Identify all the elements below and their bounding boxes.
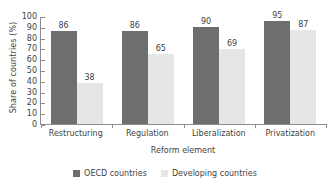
bar-group: 9069 — [184, 17, 255, 124]
y-axis-title: Share of countries (%) — [9, 8, 18, 128]
legend-label: Developing countries — [172, 169, 257, 178]
bar-chart: Share of countries (%) 01020304050607080… — [0, 0, 330, 189]
x-tick-mark — [112, 124, 113, 128]
x-category-label: Restructuring — [40, 129, 112, 139]
y-tick-label: 60 — [27, 55, 37, 64]
bar-group: 8638 — [41, 17, 112, 124]
bar[interactable] — [219, 49, 245, 124]
bar[interactable] — [193, 27, 219, 124]
x-tick-mark — [184, 124, 185, 128]
x-tick-mark — [326, 124, 327, 128]
y-tick-label: 10 — [27, 109, 37, 118]
bar-item[interactable]: 38 — [77, 83, 103, 124]
bar-item[interactable]: 87 — [290, 30, 316, 124]
y-tick-label: 0 — [32, 120, 37, 129]
bar-item[interactable]: 65 — [148, 54, 174, 124]
x-axis-title: Reform element — [40, 146, 326, 155]
bar-group: 8665 — [112, 17, 183, 124]
bar-item[interactable]: 95 — [264, 21, 290, 124]
y-tick-label: 70 — [27, 44, 37, 53]
legend-label: OECD countries — [84, 169, 147, 178]
bar-value-label: 38 — [85, 73, 95, 82]
bar-item[interactable]: 90 — [193, 27, 219, 124]
y-tick-label: 100 — [22, 12, 37, 21]
bar-group: 9587 — [255, 17, 326, 124]
x-category-label: Regulation — [112, 129, 184, 139]
bar-value-label: 65 — [156, 44, 166, 53]
bar-value-label: 90 — [201, 17, 211, 26]
x-category-label: Privatization — [255, 129, 327, 139]
legend-item[interactable]: Developing countries — [161, 169, 257, 178]
bar[interactable] — [264, 21, 290, 124]
x-axis-category-labels: RestructuringRegulationLiberalizationPri… — [40, 129, 326, 139]
bar-item[interactable]: 86 — [122, 31, 148, 124]
y-tick-label: 90 — [27, 23, 37, 32]
bar-value-label: 95 — [272, 11, 282, 20]
legend-color-swatch — [161, 170, 168, 177]
x-tick-mark — [255, 124, 256, 128]
bar[interactable] — [122, 31, 148, 124]
bar[interactable] — [148, 54, 174, 124]
y-tick-label: 80 — [27, 34, 37, 43]
legend-color-swatch — [73, 170, 80, 177]
bar-value-label: 69 — [227, 39, 237, 48]
plot-area: 0102030405060708090100 8638866590699587 — [40, 17, 326, 125]
bar-value-label: 86 — [130, 21, 140, 30]
chart-legend: OECD countriesDeveloping countries — [0, 169, 330, 178]
legend-item[interactable]: OECD countries — [73, 169, 147, 178]
bar-groups: 8638866590699587 — [41, 17, 326, 124]
x-tick-mark — [41, 124, 42, 128]
y-tick-label: 50 — [27, 66, 37, 75]
y-tick-label: 30 — [27, 88, 37, 97]
bar-value-label: 87 — [298, 20, 308, 29]
bar-value-label: 86 — [59, 21, 69, 30]
y-tick-label: 40 — [27, 77, 37, 86]
y-tick-label: 20 — [27, 98, 37, 107]
x-category-label: Liberalization — [183, 129, 255, 139]
bar[interactable] — [290, 30, 316, 124]
bar-item[interactable]: 86 — [51, 31, 77, 124]
bar[interactable] — [51, 31, 77, 124]
bar-item[interactable]: 69 — [219, 49, 245, 124]
bar[interactable] — [77, 83, 103, 124]
